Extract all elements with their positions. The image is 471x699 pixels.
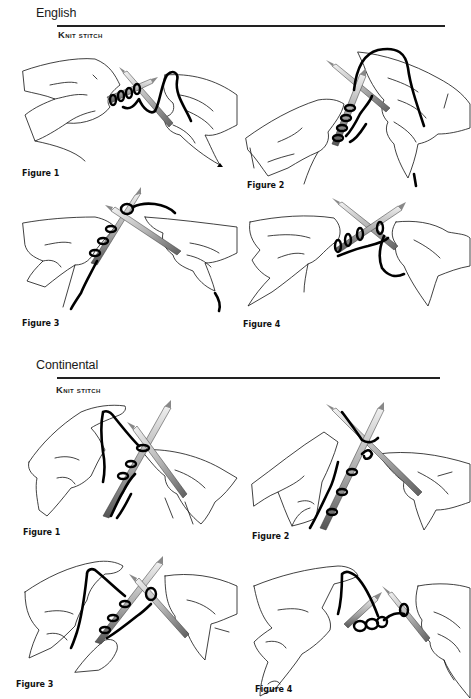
section-rule [57,377,440,379]
section-title-continental: Continental [36,358,98,372]
english-figure-2-illustration [238,38,471,188]
caption-english-figure-4: Figure 4 [243,320,280,329]
english-figure-1-illustration [15,45,240,170]
caption-continental-figure-4: Figure 4 [255,685,292,694]
subhead-knit-stitch: Knit stitch [58,29,103,40]
english-figure-4-illustration [238,196,471,316]
section-rule [57,25,445,27]
continental-figure-4-illustration [238,556,471,699]
subhead-knit-stitch: Knit stitch [56,384,101,395]
continental-figure-3-illustration [15,552,240,674]
english-figure-3-illustration [15,183,240,313]
caption-continental-figure-1: Figure 1 [23,528,60,537]
continental-figure-2-illustration [238,402,471,532]
section-title-english: English [36,6,76,20]
caption-continental-figure-3: Figure 3 [16,680,53,689]
caption-english-figure-1: Figure 1 [22,169,59,178]
caption-english-figure-3: Figure 3 [22,319,59,328]
hand-illustration-icon [23,59,120,141]
caption-english-figure-2: Figure 2 [247,181,284,190]
caption-continental-figure-2: Figure 2 [252,532,289,541]
continental-figure-1-illustration [15,398,240,526]
